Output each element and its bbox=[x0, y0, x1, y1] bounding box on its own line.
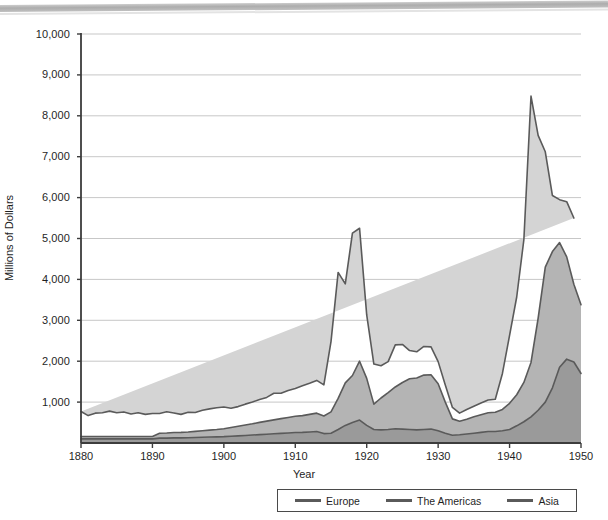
legend-item-the-americas[interactable]: The Americas bbox=[386, 495, 481, 507]
y-axis-title: Millions of Dollars bbox=[3, 195, 15, 281]
x-axis-title: Year bbox=[0, 468, 608, 480]
legend-swatch-europe bbox=[295, 499, 321, 502]
chart-figure: 1,0002,0003,0004,0005,0006,0007,0008,000… bbox=[0, 0, 608, 520]
x-axis-tick-label: 1890 bbox=[122, 450, 182, 462]
legend-swatch-asia bbox=[507, 499, 533, 502]
legend-swatch-the-americas bbox=[386, 499, 412, 502]
x-axis-tick-label: 1910 bbox=[265, 450, 325, 462]
x-axis-tick-label: 1950 bbox=[551, 450, 608, 462]
x-axis-tick-labels: 18801890190019101920193019401950 bbox=[0, 0, 608, 520]
legend-label-europe: Europe bbox=[326, 495, 360, 507]
x-axis-tick-label: 1930 bbox=[408, 450, 468, 462]
x-axis-tick-label: 1940 bbox=[480, 450, 540, 462]
x-axis-tick-label: 1880 bbox=[51, 450, 111, 462]
legend-label-the-americas: The Americas bbox=[417, 495, 481, 507]
x-axis-tick-label: 1920 bbox=[337, 450, 397, 462]
legend-label-asia: Asia bbox=[538, 495, 558, 507]
x-axis-tick-label: 1900 bbox=[194, 450, 254, 462]
chart-legend: Europe The Americas Asia bbox=[277, 489, 577, 512]
legend-item-asia[interactable]: Asia bbox=[507, 495, 558, 507]
legend-item-europe[interactable]: Europe bbox=[295, 495, 360, 507]
